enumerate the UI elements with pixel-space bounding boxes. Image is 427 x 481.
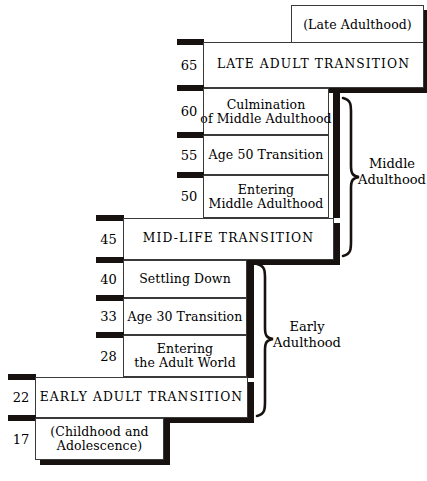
label-childhood-adolescence: (Childhood and Adolescence) [33, 418, 166, 460]
label-age-50-transition: Age 50 Transition [203, 135, 329, 175]
label-late-adulthood: (Late Adulthood) [291, 5, 424, 45]
divider-45 [123, 218, 124, 260]
tick-28 [96, 332, 124, 338]
divider-60 [203, 88, 204, 135]
divider-17 [35, 418, 36, 460]
age-label-45: 45 [95, 222, 122, 256]
tick-55 [177, 132, 204, 138]
age-label-55: 55 [176, 139, 202, 171]
tick-45 [96, 215, 124, 221]
divider-65 [203, 42, 204, 88]
age-label-60: 60 [176, 94, 202, 128]
age-label-17: 17 [7, 423, 35, 456]
tick-22 [8, 374, 36, 380]
age-label-40: 40 [95, 263, 122, 295]
group-label-middle-adulthood: Middle Adulthood [357, 156, 427, 187]
label-settling-down: Settling Down [123, 260, 247, 298]
label-entering-middle-adulthood: Entering Middle Adulthood [200, 175, 332, 218]
divider-40 [123, 260, 124, 298]
age-label-28: 28 [95, 340, 122, 372]
age-label-50: 50 [176, 180, 202, 213]
tick-60 [177, 85, 204, 91]
age-label-33: 33 [95, 300, 122, 332]
tick-17 [8, 415, 36, 421]
tick-65 [177, 39, 204, 45]
group-label-early-adulthood: Early Adulthood [272, 319, 342, 350]
divider-28 [123, 335, 124, 377]
label-culmination-middle-adulthood: Culmination of Middle Adulthood [200, 88, 332, 135]
label-mid-life-transition: MID-LIFE TRANSITION [123, 218, 334, 260]
divider-33 [123, 298, 124, 335]
label-entering-adult-world: Entering the Adult World [121, 335, 249, 377]
age-label-65: 65 [176, 48, 202, 82]
life-structure-diagram: (Late Adulthood) LATE ADULT TRANSITION 6… [0, 0, 427, 481]
label-early-adult-transition: EARLY ADULT TRANSITION [35, 377, 248, 418]
tick-50 [177, 172, 204, 178]
label-late-adult-transition: LATE ADULT TRANSITION [203, 42, 424, 88]
age-label-22: 22 [7, 381, 35, 414]
divider-22 [35, 377, 36, 418]
divider-50 [203, 175, 204, 218]
divider-55 [203, 135, 204, 175]
label-age-30-transition: Age 30 Transition [123, 298, 247, 335]
